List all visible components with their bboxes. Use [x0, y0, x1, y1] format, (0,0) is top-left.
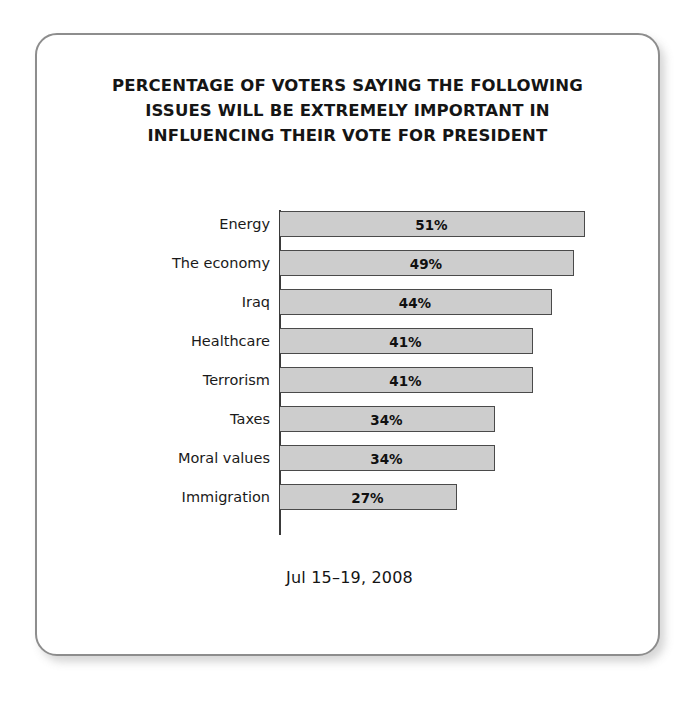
- bar-rect: 34%: [280, 406, 495, 432]
- chart-card: PERCENTAGE OF VOTERS SAYING THE FOLLOWIN…: [35, 33, 660, 656]
- bar-category-label: Energy: [219, 211, 270, 237]
- bar-chart-plot-area: Energy 51% The economy 49% Iraq 44% Heal…: [37, 205, 662, 535]
- bar-row: Terrorism 41%: [37, 367, 662, 393]
- chart-footer-date: Jul 15–19, 2008: [37, 568, 662, 587]
- bar-row: Immigration 27%: [37, 484, 662, 510]
- bar-rect: 34%: [280, 445, 495, 471]
- bar-value-label: 34%: [280, 446, 493, 472]
- bar-rect: 51%: [280, 211, 585, 237]
- bar-value-label: 51%: [280, 212, 583, 238]
- chart-title: PERCENTAGE OF VOTERS SAYING THE FOLLOWIN…: [37, 73, 658, 148]
- bar-value-label: 41%: [280, 368, 531, 394]
- bar-category-label: Healthcare: [191, 328, 270, 354]
- bar-category-label: Moral values: [178, 445, 270, 471]
- bar-category-label: Iraq: [242, 289, 270, 315]
- bar-row: Taxes 34%: [37, 406, 662, 432]
- bar-value-label: 44%: [280, 290, 550, 316]
- bar-category-label: The economy: [172, 250, 270, 276]
- bar-category-label: Immigration: [182, 484, 270, 510]
- bar-value-label: 34%: [280, 407, 493, 433]
- bar-rect: 41%: [280, 328, 533, 354]
- bar-row: Moral values 34%: [37, 445, 662, 471]
- bar-row: The economy 49%: [37, 250, 662, 276]
- bar-rect: 41%: [280, 367, 533, 393]
- bar-value-label: 27%: [280, 485, 455, 511]
- bar-value-label: 49%: [280, 251, 572, 277]
- bar-rect: 49%: [280, 250, 574, 276]
- bar-category-label: Taxes: [230, 406, 270, 432]
- bar-row: Healthcare 41%: [37, 328, 662, 354]
- bar-category-label: Terrorism: [203, 367, 270, 393]
- bar-value-label: 41%: [280, 329, 531, 355]
- bar-rect: 27%: [280, 484, 457, 510]
- bar-row: Energy 51%: [37, 211, 662, 237]
- bar-rect: 44%: [280, 289, 552, 315]
- bar-row: Iraq 44%: [37, 289, 662, 315]
